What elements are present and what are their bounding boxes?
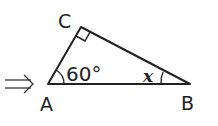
angle-arc-a: [56, 70, 64, 84]
vertex-label-a: A: [40, 93, 53, 115]
vertex-label-c: C: [58, 10, 71, 32]
vertex-label-b: B: [181, 92, 194, 114]
triangle-diagram: 60° x C A B: [0, 0, 218, 126]
angle-a-label: 60°: [66, 62, 101, 86]
angle-arc-b: [161, 72, 163, 84]
angle-b-label: x: [142, 66, 154, 86]
implies-arrow-icon: [5, 75, 33, 93]
